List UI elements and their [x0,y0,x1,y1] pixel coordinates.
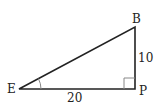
right-angle-marker [124,78,135,89]
side-label-ep: 20 [67,91,82,105]
vertex-label-e: E [7,82,16,96]
triangle-ebp [19,27,135,89]
triangle-diagram: E B P 10 20 [0,0,158,112]
side-label-bp: 10 [138,51,153,65]
angle-arc-e [38,79,41,89]
vertex-label-b: B [132,12,141,26]
vertex-label-p: P [139,84,147,98]
